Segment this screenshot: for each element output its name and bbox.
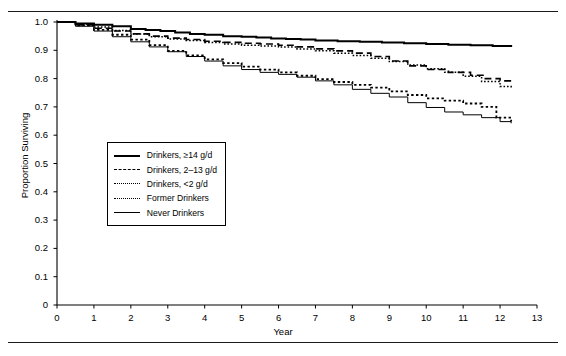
x-axis-title: Year: [233, 326, 333, 337]
legend-item: Former Drinkers: [114, 191, 217, 205]
x-axis-tick-label: 0: [45, 312, 69, 323]
x-axis-tick-label: 5: [230, 312, 254, 323]
legend: Drinkers, ≥14 g/dDrinkers, 2–13 g/dDrink…: [107, 142, 226, 226]
data-series: [57, 22, 511, 123]
x-axis-tick-label: 1: [82, 312, 106, 323]
legend-item: Drinkers, 2–13 g/d: [114, 162, 217, 176]
y-axis-tick-label: 0.9: [14, 45, 48, 55]
legend-line-swatch: [114, 208, 140, 218]
survival-curves-plot: [0, 0, 566, 356]
x-axis-tick-label: 2: [119, 312, 143, 323]
x-axis-tick-label: 12: [488, 312, 512, 323]
legend-item-label: Drinkers, ≥14 g/d: [147, 150, 212, 160]
x-axis-tick-label: 8: [340, 312, 364, 323]
legend-item: Drinkers, ≥14 g/d: [114, 148, 217, 162]
x-axis-tick-label: 3: [156, 312, 180, 323]
y-axis-tick-label: 1.0: [14, 17, 48, 27]
y-axis-tick-label: 0: [14, 300, 48, 310]
survival-curve: [57, 22, 511, 89]
survival-curve: [57, 22, 511, 81]
y-axis-tick-label: 0.1: [14, 272, 48, 282]
y-axis-title: Proportion Surviving: [19, 86, 30, 226]
legend-item: Never Drinkers: [114, 205, 217, 219]
legend-item-label: Never Drinkers: [147, 208, 204, 218]
legend-item-label: Drinkers, 2–13 g/d: [147, 165, 217, 175]
legend-line-swatch: [114, 179, 140, 189]
x-axis-tick-label: 11: [451, 312, 475, 323]
x-axis-tick-label: 10: [414, 312, 438, 323]
legend-line-swatch: [114, 150, 140, 160]
survival-curve: [57, 22, 511, 123]
x-axis-tick-label: 6: [267, 312, 291, 323]
legend-item-label: Drinkers, <2 g/d: [147, 179, 208, 189]
x-axis-tick-label: 9: [377, 312, 401, 323]
x-axis-tick-label: 7: [303, 312, 327, 323]
legend-line-swatch: [114, 193, 140, 203]
y-axis-tick-label: 0.8: [14, 74, 48, 84]
legend-item: Drinkers, <2 g/d: [114, 177, 217, 191]
survival-curve: [57, 22, 511, 47]
x-axis-tick-label: 13: [525, 312, 549, 323]
legend-item-label: Former Drinkers: [147, 193, 209, 203]
x-axis-tick-label: 4: [193, 312, 217, 323]
figure-panel: 00.10.20.30.40.50.60.70.80.91.0 Proporti…: [0, 0, 566, 356]
y-axis-tick-label: 0.2: [14, 243, 48, 253]
legend-line-swatch: [114, 165, 140, 175]
